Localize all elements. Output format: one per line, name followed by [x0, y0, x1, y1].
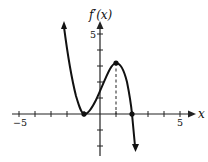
f-prime-graph: f′(x) 5 −5 5 x — [0, 0, 208, 162]
curve-bottom-arrow-icon — [132, 144, 139, 152]
point-max — [113, 60, 118, 65]
y-axis-label: f′(x) — [88, 8, 113, 22]
y-axis-arrow-icon — [97, 21, 104, 29]
curve-top-arrow-icon — [61, 21, 67, 29]
x-tick-label-5: 5 — [177, 117, 183, 128]
y-tick-label-5: 5 — [90, 29, 96, 40]
point-zero — [129, 111, 134, 116]
x-axis-label: x — [198, 107, 205, 121]
x-axis-arrow-icon — [188, 111, 196, 118]
point-min — [81, 111, 86, 116]
x-tick-label-neg5: −5 — [13, 117, 27, 128]
